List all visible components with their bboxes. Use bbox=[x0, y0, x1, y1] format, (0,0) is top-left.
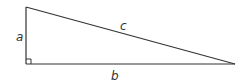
right-triangle-diagram: a b c bbox=[0, 0, 250, 84]
label-a: a bbox=[16, 30, 23, 44]
side-c-hypotenuse bbox=[26, 7, 235, 64]
right-angle-marker bbox=[26, 59, 31, 64]
label-b: b bbox=[111, 69, 119, 83]
label-c: c bbox=[120, 19, 127, 33]
